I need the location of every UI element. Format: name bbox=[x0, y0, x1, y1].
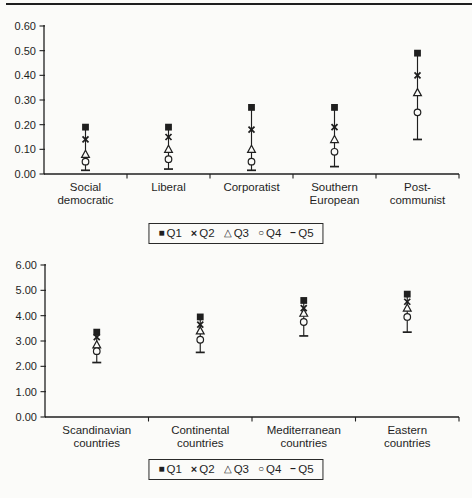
svg-text:Corporatist: Corporatist bbox=[223, 181, 280, 193]
quintile-chart-welfare-regimes: 0.000.100.200.300.400.500.60Socialdemocr… bbox=[0, 8, 472, 220]
legend-item-q3: △ Q3 bbox=[224, 462, 249, 476]
svg-text:0.00: 0.00 bbox=[15, 168, 36, 180]
top-divider-rule bbox=[6, 3, 472, 5]
square-filled-icon: ■ bbox=[158, 462, 164, 476]
svg-text:5.00: 5.00 bbox=[16, 284, 37, 296]
svg-text:0.20: 0.20 bbox=[15, 119, 36, 131]
svg-text:6.00: 6.00 bbox=[16, 259, 37, 271]
legend-label-q3: Q3 bbox=[234, 226, 249, 240]
legend-item-q5: − Q5 bbox=[290, 226, 313, 240]
legend-item-q5: − Q5 bbox=[290, 462, 313, 476]
svg-text:3.00: 3.00 bbox=[16, 335, 37, 347]
svg-text:countries: countries bbox=[73, 437, 120, 449]
svg-text:0.30: 0.30 bbox=[15, 94, 36, 106]
svg-text:democratic: democratic bbox=[57, 194, 113, 206]
legend-item-q4: ○ Q4 bbox=[258, 226, 281, 240]
svg-text:2.00: 2.00 bbox=[16, 360, 37, 372]
svg-text:0.10: 0.10 bbox=[15, 143, 36, 155]
circle-open-icon: ○ bbox=[258, 226, 264, 240]
svg-text:0.40: 0.40 bbox=[15, 69, 36, 81]
legend-label-q2: Q2 bbox=[199, 462, 214, 476]
x-marker-icon: × bbox=[191, 226, 197, 240]
legend-label-q4: Q4 bbox=[266, 226, 281, 240]
svg-text:0.50: 0.50 bbox=[15, 45, 36, 57]
svg-text:Scandinavian: Scandinavian bbox=[62, 424, 131, 436]
svg-text:4.00: 4.00 bbox=[16, 310, 37, 322]
legend-item-q1: ■ Q1 bbox=[158, 462, 181, 476]
legend-label-q5: Q5 bbox=[298, 462, 313, 476]
triangle-open-icon: △ bbox=[224, 226, 232, 240]
svg-text:Continental: Continental bbox=[171, 424, 229, 436]
legend-item-q2: × Q2 bbox=[191, 462, 215, 476]
square-filled-icon: ■ bbox=[158, 226, 164, 240]
x-marker-icon: × bbox=[191, 462, 197, 476]
quintile-legend-top: ■ Q1 × Q2 △ Q3 ○ Q4 − Q5 bbox=[148, 223, 323, 244]
svg-text:countries: countries bbox=[384, 437, 431, 449]
quintile-chart-country-groups: 0.001.002.003.004.005.006.00Scandinavian… bbox=[0, 255, 472, 457]
svg-text:Eastern: Eastern bbox=[387, 424, 427, 436]
legend-item-q3: △ Q3 bbox=[224, 226, 249, 240]
figure-page: 0.000.100.200.300.400.500.60Socialdemocr… bbox=[0, 0, 472, 498]
legend-label-q5: Q5 bbox=[298, 226, 313, 240]
svg-text:European: European bbox=[310, 194, 360, 206]
svg-text:Social: Social bbox=[70, 181, 101, 193]
svg-text:0.60: 0.60 bbox=[15, 20, 36, 32]
quintile-legend-bottom: ■ Q1 × Q2 △ Q3 ○ Q4 − Q5 bbox=[148, 459, 323, 480]
svg-text:Southern: Southern bbox=[311, 181, 358, 193]
svg-text:communist: communist bbox=[390, 194, 446, 206]
legend-label-q4: Q4 bbox=[266, 462, 281, 476]
legend-label-q1: Q1 bbox=[167, 226, 182, 240]
dash-marker-icon: − bbox=[290, 462, 296, 476]
svg-text:Mediterranean: Mediterranean bbox=[267, 424, 341, 436]
legend-item-q2: × Q2 bbox=[191, 226, 215, 240]
svg-text:1.00: 1.00 bbox=[16, 386, 37, 398]
legend-label-q3: Q3 bbox=[234, 462, 249, 476]
legend-item-q4: ○ Q4 bbox=[258, 462, 281, 476]
legend-label-q1: Q1 bbox=[167, 462, 182, 476]
circle-open-icon: ○ bbox=[258, 462, 264, 476]
dash-marker-icon: − bbox=[290, 226, 296, 240]
legend-label-q2: Q2 bbox=[199, 226, 214, 240]
svg-text:countries: countries bbox=[177, 437, 224, 449]
triangle-open-icon: △ bbox=[224, 462, 232, 476]
legend-item-q1: ■ Q1 bbox=[158, 226, 181, 240]
svg-text:Post-: Post- bbox=[404, 181, 431, 193]
svg-text:countries: countries bbox=[280, 437, 327, 449]
svg-text:Liberal: Liberal bbox=[151, 181, 186, 193]
svg-text:0.00: 0.00 bbox=[16, 411, 37, 423]
